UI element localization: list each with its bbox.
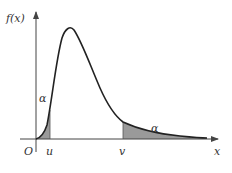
- x-axis-label: x: [214, 145, 221, 158]
- v-label: v: [119, 145, 126, 158]
- y-axis-label: f(x): [5, 12, 25, 25]
- right-tail-shade: [123, 122, 207, 139]
- origin-label: O: [24, 145, 33, 158]
- density-curve: [36, 28, 207, 139]
- right-alpha-label: α: [151, 122, 159, 135]
- density-diagram: f(x) α O u v α x: [0, 0, 232, 173]
- u-label: u: [46, 145, 53, 158]
- left-alpha-label: α: [39, 92, 47, 105]
